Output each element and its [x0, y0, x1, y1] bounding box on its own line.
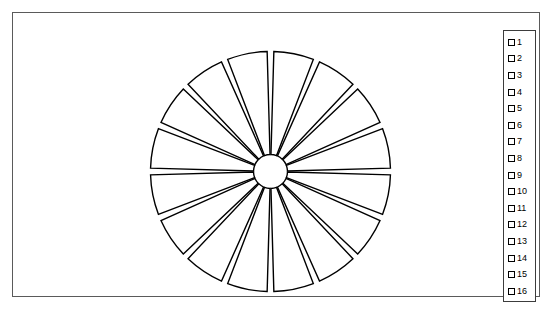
legend-label: 1 — [517, 38, 522, 47]
legend-item[interactable]: 2 — [504, 51, 535, 68]
pie-svg — [138, 39, 403, 304]
legend-swatch-icon — [508, 105, 515, 112]
legend-swatch-icon — [508, 271, 515, 278]
legend-item[interactable]: 6 — [504, 117, 535, 134]
legend-item[interactable]: 14 — [504, 250, 535, 267]
legend-label: 16 — [517, 287, 527, 296]
legend-swatch-icon — [508, 72, 515, 79]
legend-label: 12 — [517, 220, 527, 229]
legend-item[interactable]: 7 — [504, 134, 535, 151]
pie-slice-group — [151, 52, 391, 292]
legend-item[interactable]: 3 — [504, 67, 535, 84]
legend-label: 15 — [517, 270, 527, 279]
legend-label: 6 — [517, 121, 522, 130]
legend-label: 14 — [517, 254, 527, 263]
legend-swatch-icon — [508, 155, 515, 162]
legend-label: 7 — [517, 137, 522, 146]
legend-item[interactable]: 10 — [504, 183, 535, 200]
legend-label: 4 — [517, 88, 522, 97]
legend-swatch-icon — [508, 255, 515, 262]
legend-swatch-icon — [508, 238, 515, 245]
legend-item[interactable]: 15 — [504, 266, 535, 283]
legend-swatch-icon — [508, 188, 515, 195]
legend-swatch-icon — [508, 138, 515, 145]
screenshot-root: 12345678910111213141516 — [0, 0, 551, 310]
legend-label: 9 — [517, 171, 522, 180]
legend-label: 8 — [517, 154, 522, 163]
legend-swatch-icon — [508, 205, 515, 212]
legend-item[interactable]: 1 — [504, 34, 535, 51]
legend: 12345678910111213141516 — [503, 30, 536, 302]
legend-swatch-icon — [508, 122, 515, 129]
legend-label: 11 — [517, 204, 526, 213]
legend-item[interactable]: 4 — [504, 84, 535, 101]
legend-label: 2 — [517, 54, 522, 63]
legend-swatch-icon — [508, 89, 515, 96]
legend-label: 13 — [517, 237, 527, 246]
legend-item[interactable]: 11 — [504, 200, 535, 217]
legend-label: 10 — [517, 187, 527, 196]
legend-swatch-icon — [508, 55, 515, 62]
legend-item[interactable]: 16 — [504, 283, 535, 300]
legend-label: 5 — [517, 104, 522, 113]
plot-frame: 12345678910111213141516 — [12, 12, 540, 297]
legend-item[interactable]: 13 — [504, 233, 535, 250]
legend-swatch-icon — [508, 288, 515, 295]
legend-swatch-icon — [508, 39, 515, 46]
legend-item[interactable]: 8 — [504, 150, 535, 167]
legend-item[interactable]: 9 — [504, 167, 535, 184]
legend-item[interactable]: 5 — [504, 100, 535, 117]
pie-chart — [138, 39, 403, 304]
legend-swatch-icon — [508, 221, 515, 228]
legend-swatch-icon — [508, 172, 515, 179]
legend-item[interactable]: 12 — [504, 217, 535, 234]
legend-label: 3 — [517, 71, 522, 80]
